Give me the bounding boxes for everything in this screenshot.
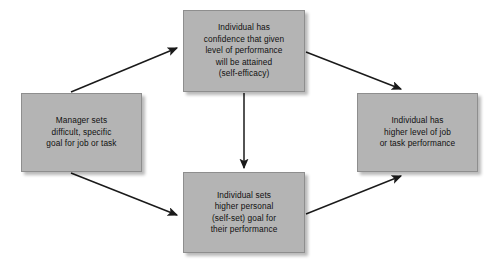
node-manager-goal[interactable]: Manager sets difficult, specific goal fo…	[21, 93, 142, 172]
arrow-self-set-goal-to-performance	[306, 176, 401, 214]
node-self-efficacy[interactable]: Individual has confidence that given lev…	[183, 10, 305, 92]
arrow-self-efficacy-to-performance	[306, 52, 401, 89]
diagram-canvas: Manager sets difficult, specific goal fo…	[0, 0, 500, 271]
arrow-manager-to-self-set-goal	[71, 173, 177, 215]
node-manager-goal-label: Manager sets difficult, specific goal fo…	[42, 115, 120, 149]
arrow-manager-to-self-efficacy	[71, 48, 177, 92]
node-self-set-goal[interactable]: Individual sets higher personal (self-se…	[183, 172, 305, 253]
node-performance[interactable]: Individual has higher level of job or ta…	[357, 93, 478, 172]
node-performance-label: Individual has higher level of job or ta…	[376, 115, 460, 149]
node-self-efficacy-label: Individual has confidence that given lev…	[200, 22, 289, 79]
node-self-set-goal-label: Individual sets higher personal (self-se…	[207, 190, 282, 236]
